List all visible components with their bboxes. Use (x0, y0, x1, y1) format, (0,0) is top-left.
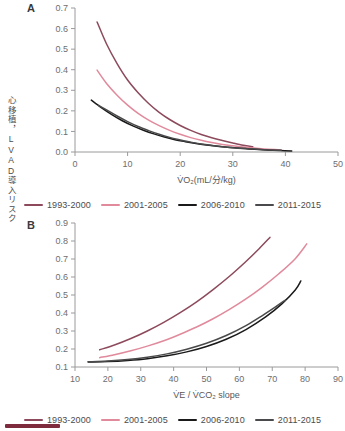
y-tick-label: 0.4 (55, 308, 68, 318)
y-tick-label: 0.3 (55, 85, 68, 95)
legend-item[interactable]: 2006-2010 (178, 415, 245, 425)
bottom-accent-bar (5, 424, 60, 428)
x-tick-label: 30 (228, 159, 238, 169)
x-tick-label: 30 (136, 374, 146, 384)
y-tick-label: 0.7 (55, 3, 68, 13)
y-tick-label: 0.5 (55, 290, 68, 300)
panel-b-chart: 0.10.20.30.40.50.60.70.80.91020304050607… (20, 215, 345, 431)
legend-swatch-2001-2005 (101, 419, 120, 421)
y-tick-label: 0.1 (55, 362, 68, 372)
y-tick-label: 0.9 (55, 218, 68, 228)
legend-item[interactable]: 2001-2005 (101, 415, 168, 425)
legend-item[interactable]: 2011-2015 (255, 415, 321, 425)
series-line-2001-2005 (100, 244, 307, 358)
y-tick-label: 0.0 (55, 147, 68, 157)
panel-a-plot: 0.00.10.20.30.40.50.60.701020304050V̇O₂(… (20, 0, 345, 200)
legend-label: 2001-2005 (124, 200, 168, 210)
y-tick-label: 0.1 (55, 127, 68, 137)
legend-swatch-1993-2000 (24, 204, 43, 206)
legend-item[interactable]: 2011-2015 (255, 200, 321, 210)
x-tick-label: 40 (169, 374, 179, 384)
x-tick-label: 20 (103, 374, 113, 384)
x-tick-label: 50 (201, 374, 211, 384)
legend-swatch-2011-2015 (255, 419, 274, 421)
y-tick-label: 0.5 (55, 44, 68, 54)
x-tick-label: 40 (280, 159, 290, 169)
y-tick-label: 0.6 (55, 272, 68, 282)
legend-label: 2011-2015 (278, 415, 321, 425)
y-tick-label: 0.8 (55, 236, 68, 246)
panel-a-chart: 0.00.10.20.30.40.50.60.701020304050V̇O₂(… (20, 0, 345, 215)
legend-swatch-2006-2010 (178, 419, 197, 421)
y-tick-label: 0.6 (55, 24, 68, 34)
series-line-2006-2010 (91, 100, 291, 151)
x-tick-label: 60 (234, 374, 244, 384)
legend-label: 2006-2010 (201, 200, 245, 210)
series-line-1993-2000 (97, 22, 253, 147)
series-line-2011-2015 (99, 106, 282, 151)
x-axis-title: V̇E / V̇CO₂ slope (173, 390, 240, 400)
x-tick-label: 0 (72, 159, 77, 169)
legend-swatch-2006-2010 (178, 204, 197, 206)
figure-container: 心移植，LVAD導入リスク A B 0.00.10.20.30.40.50.60… (0, 0, 345, 431)
legend-label: 2011-2015 (278, 200, 321, 210)
panel-b-plot: 0.10.20.30.40.50.60.70.80.91020304050607… (20, 215, 345, 415)
x-axis-title: V̇O₂(mL/分/kg) (177, 175, 236, 185)
y-tick-label: 0.7 (55, 254, 68, 264)
legend-label: 2001-2005 (124, 415, 168, 425)
x-tick-label: 50 (333, 159, 343, 169)
x-tick-label: 90 (333, 374, 343, 384)
y-tick-label: 0.2 (55, 344, 68, 354)
y-tick-label: 0.3 (55, 326, 68, 336)
legend-label: 1993-2000 (47, 200, 91, 210)
legend-label: 2006-2010 (201, 415, 245, 425)
series-line-2006-2010 (88, 281, 301, 362)
series-line-2001-2005 (97, 70, 281, 150)
x-tick-label: 10 (70, 374, 80, 384)
legend-item[interactable]: 2006-2010 (178, 200, 245, 210)
panel-a-legend: 1993-20002001-20052006-20102011-2015 (0, 196, 345, 214)
x-tick-label: 70 (267, 374, 277, 384)
x-tick-label: 20 (175, 159, 185, 169)
legend-swatch-2011-2015 (255, 204, 274, 206)
legend-swatch-2001-2005 (101, 204, 120, 206)
y-tick-label: 0.4 (55, 65, 68, 75)
y-tick-label: 0.2 (55, 106, 68, 116)
x-tick-label: 10 (123, 159, 133, 169)
x-tick-label: 80 (300, 374, 310, 384)
legend-swatch-1993-2000 (24, 419, 43, 421)
legend-item[interactable]: 2001-2005 (101, 200, 168, 210)
legend-item[interactable]: 1993-2000 (24, 200, 91, 210)
